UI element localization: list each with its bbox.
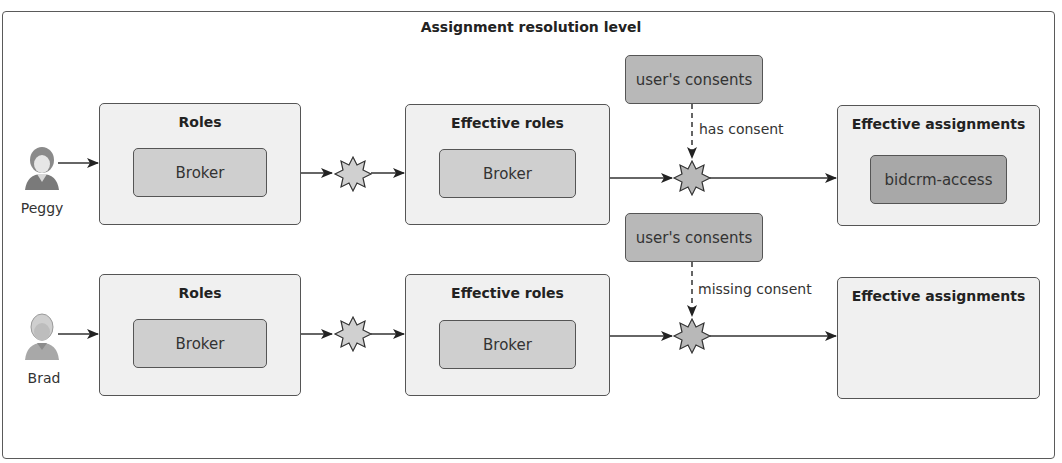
users-consents-box-2: user's consents bbox=[625, 213, 763, 262]
diagram-title: Assignment resolution level bbox=[0, 19, 1062, 35]
effective-roles-title: Effective roles bbox=[406, 115, 609, 131]
role-chip: Broker bbox=[133, 148, 267, 197]
effective-assignments-title-2: Effective assignments bbox=[838, 288, 1039, 304]
assignment-chip: bidcrm-access bbox=[870, 155, 1007, 204]
effective-assignments-box-2: Effective assignments bbox=[837, 277, 1040, 399]
roles-title: Roles bbox=[100, 114, 300, 130]
role-chip-2: Broker bbox=[133, 319, 267, 368]
users-consents-box: user's consents bbox=[625, 55, 763, 104]
has-consent-label: has consent bbox=[699, 121, 784, 137]
effective-assignments-title: Effective assignments bbox=[838, 116, 1039, 132]
effective-roles-title-2: Effective roles bbox=[406, 285, 609, 301]
effective-role-chip-2: Broker bbox=[439, 320, 576, 369]
missing-consent-label: missing consent bbox=[698, 281, 812, 297]
user-name-brad: Brad bbox=[14, 370, 74, 386]
roles-title-2: Roles bbox=[100, 285, 300, 301]
effective-role-chip: Broker bbox=[439, 149, 576, 198]
user-name-peggy: Peggy bbox=[12, 200, 72, 216]
